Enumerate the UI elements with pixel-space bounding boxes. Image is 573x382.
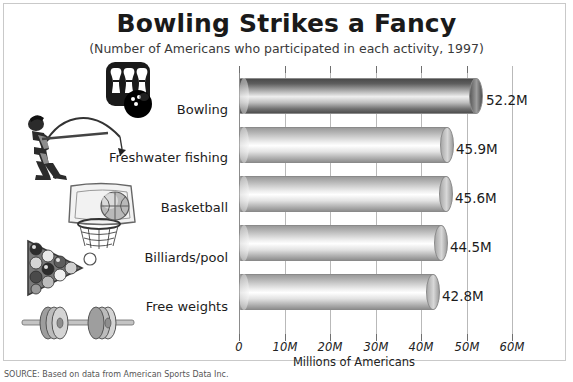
category-label-bowling: Bowling bbox=[28, 102, 228, 117]
bar-body bbox=[240, 79, 476, 113]
value-label-billiards: 44.5M bbox=[450, 239, 492, 255]
bar-left-cap bbox=[239, 274, 249, 310]
tick-top-50 bbox=[467, 66, 468, 73]
category-label-billiards: Billiards/pool bbox=[28, 250, 228, 265]
bar-left-cap bbox=[239, 78, 249, 114]
x-tick-label-60: 60M bbox=[489, 340, 535, 354]
value-label-fishing: 45.9M bbox=[456, 141, 498, 157]
value-label-bowling: 52.2M bbox=[486, 92, 528, 108]
category-label-weights: Free weights bbox=[28, 299, 228, 314]
x-tick-label-20: 20M bbox=[307, 340, 353, 354]
chart-subtitle: (Number of Americans who participated in… bbox=[0, 41, 573, 56]
tick-top-40 bbox=[421, 66, 422, 73]
bar-end-cap bbox=[434, 225, 448, 261]
bar-left-cap bbox=[239, 225, 249, 261]
value-label-weights: 42.8M bbox=[442, 288, 484, 304]
x-tick-label-40: 40M bbox=[398, 340, 444, 354]
billiards-ball-rack-icon bbox=[18, 237, 100, 303]
bar-body bbox=[240, 275, 433, 309]
bar-end-cap bbox=[469, 78, 483, 114]
x-axis-label: Millions of Americans bbox=[239, 355, 469, 369]
tick-top-10 bbox=[285, 66, 286, 73]
bar-body bbox=[240, 128, 447, 162]
x-tick-label-30: 30M bbox=[353, 340, 399, 354]
bar-end-cap bbox=[426, 274, 440, 310]
x-tick-label-0: 0 bbox=[216, 340, 262, 354]
bar-free-weights[interactable] bbox=[239, 274, 434, 310]
bar-billiards-pool[interactable] bbox=[239, 225, 442, 261]
source-note: SOURCE: Based on data from American Spor… bbox=[4, 370, 228, 379]
value-label-basketball: 45.6M bbox=[455, 190, 497, 206]
x-tick-label-10: 10M bbox=[262, 340, 308, 354]
category-label-fishing: Freshwater fishing bbox=[28, 150, 228, 165]
bar-freshwater-fishing[interactable] bbox=[239, 127, 448, 163]
bar-body bbox=[240, 226, 441, 260]
bar-body bbox=[240, 177, 446, 211]
tick-top-30 bbox=[376, 66, 377, 73]
category-label-basketball: Basketball bbox=[28, 200, 228, 215]
bar-end-cap bbox=[439, 176, 453, 212]
bar-end-cap bbox=[440, 127, 454, 163]
tick-top-20 bbox=[330, 66, 331, 73]
bar-left-cap bbox=[239, 176, 249, 212]
x-tick-label-50: 50M bbox=[444, 340, 490, 354]
chart-title: Bowling Strikes a Fancy bbox=[0, 9, 573, 38]
bar-bowling[interactable] bbox=[239, 78, 477, 114]
tick-top-0 bbox=[239, 66, 240, 73]
bar-basketball[interactable] bbox=[239, 176, 447, 212]
bar-left-cap bbox=[239, 127, 249, 163]
